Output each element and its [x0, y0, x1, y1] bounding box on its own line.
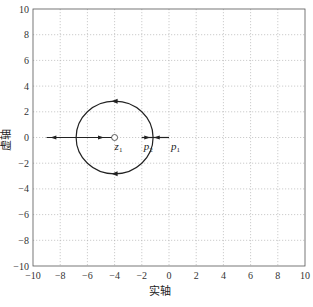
arrow-icon [50, 136, 56, 140]
x-tick-label: 10 [300, 270, 310, 281]
root-locus-chart: −10−8−6−4−202468101086420−2−4−6−8−10 z1p… [0, 0, 313, 307]
plot-lines: z1p2p1 [47, 99, 181, 177]
y-axis-label: 虚轴 [0, 129, 12, 151]
arrow-icon [154, 136, 160, 140]
annotation-label: p1 [170, 140, 181, 154]
x-tick-label: −6 [82, 270, 93, 281]
x-tick-label: 0 [167, 270, 172, 281]
x-tick-label: 4 [221, 270, 226, 281]
y-tick-label: −8 [18, 235, 29, 246]
x-tick-label: −2 [136, 270, 147, 281]
y-tick-label: 8 [24, 29, 29, 40]
y-tick-label: 6 [24, 55, 29, 66]
x-tick-label: 6 [248, 270, 253, 281]
y-tick-label: 2 [24, 106, 29, 117]
y-tick-label: −4 [18, 183, 29, 194]
annotation-label: p2 [143, 140, 154, 154]
x-tick-label: 2 [194, 270, 199, 281]
y-tick-label: 0 [24, 132, 29, 143]
y-tick-label: 4 [24, 81, 29, 92]
y-tick-label: 10 [19, 4, 29, 15]
x-tick-label: −10 [25, 270, 41, 281]
y-tick-label: −2 [18, 158, 29, 169]
y-tick-label: −10 [13, 261, 29, 272]
x-tick-label: 8 [275, 270, 280, 281]
axis-ticks: −10−8−6−4−202468101086420−2−4−6−8−10 [13, 4, 310, 282]
y-tick-label: −6 [18, 209, 29, 220]
annotation-label: z1 [114, 140, 123, 154]
x-tick-label: −4 [109, 270, 120, 281]
x-tick-label: −8 [55, 270, 66, 281]
arrow-icon [98, 136, 104, 140]
x-axis-label: 实轴 [149, 284, 171, 297]
